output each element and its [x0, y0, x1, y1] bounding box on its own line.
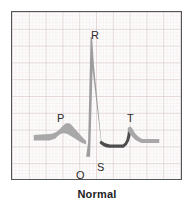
wave-label-t: T [127, 113, 134, 124]
wave-label-s: S [97, 162, 104, 173]
wave-label-p: P [57, 113, 64, 124]
wave-label-r: R [91, 30, 99, 41]
p-wave-band [34, 123, 86, 144]
figure-caption: Normal [0, 188, 194, 200]
t-wave-band [128, 126, 160, 142]
wave-label-q: Q [76, 170, 85, 180]
qrs-complex [86, 37, 101, 157]
st-segment-dark [99, 129, 131, 148]
ecg-figure: P Q R S T Normal [0, 0, 194, 208]
ecg-panel: P Q R S T [11, 11, 182, 180]
